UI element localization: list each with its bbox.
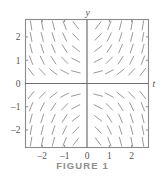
- y-tick-label: 0: [16, 79, 21, 89]
- y-tick-label: –2: [10, 125, 21, 135]
- figure-container: –2–1012–2–1012 yt FIGURE 1: [0, 0, 165, 184]
- x-tick-label: 0: [85, 151, 90, 161]
- x-tick-label: –2: [37, 151, 48, 161]
- slope-field-plot: –2–1012–2–1012 yt: [0, 0, 165, 184]
- x-tick-label: 1: [107, 151, 112, 161]
- y-tick-label: 2: [16, 32, 21, 42]
- x-tick-label: 2: [129, 151, 134, 161]
- y-axis-name-label: y: [84, 8, 90, 18]
- y-tick-label: 1: [16, 56, 21, 66]
- x-axis-name-label: t: [153, 79, 156, 89]
- y-tick-label: –1: [10, 102, 21, 112]
- x-tick-label: –1: [59, 151, 70, 161]
- figure-caption: FIGURE 1: [0, 160, 165, 171]
